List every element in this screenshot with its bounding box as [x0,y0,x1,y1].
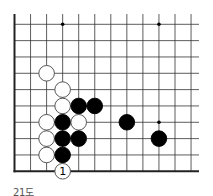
black-stone [71,131,87,147]
black-stone [87,98,103,114]
black-stone [151,131,167,147]
diagram-caption: 21도 [13,184,34,196]
black-stone [119,114,135,130]
white-stone [39,147,55,163]
black-stone [55,147,71,163]
black-stone [55,114,71,130]
star-point [61,23,65,27]
move-number-label: 1 [59,165,66,178]
white-stone [39,131,55,147]
grid-lines [14,14,200,172]
go-board-diagram: 1 [0,0,213,182]
star-point [157,120,161,124]
white-stone [55,98,71,114]
white-stone [71,114,87,130]
white-stone [39,65,55,81]
star-point [157,23,161,27]
black-stone [55,131,71,147]
black-stone [71,98,87,114]
white-stone [39,114,55,130]
white-stone [55,82,71,98]
